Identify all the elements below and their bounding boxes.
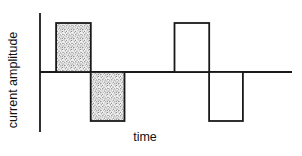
open-negative-phase xyxy=(209,72,243,121)
x-axis-label: time xyxy=(133,130,157,144)
open-positive-phase xyxy=(175,23,210,72)
stippled-positive-phase xyxy=(56,23,91,72)
figure-waveform-biphasic-pulses: current amplitude time xyxy=(0,0,302,156)
stippled-negative-phase xyxy=(91,72,125,121)
y-axis-label: current amplitude xyxy=(6,32,20,129)
waveform-plot: current amplitude time xyxy=(0,0,302,156)
